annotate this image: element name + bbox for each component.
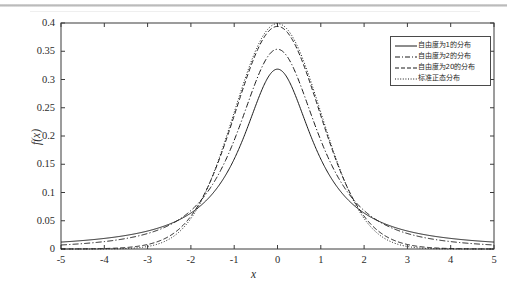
- legend-entry[interactable]: 自由度为1的分布: [394, 40, 487, 51]
- legend-line-sample-solid: [394, 41, 418, 51]
- y-axis-title: f(x): [30, 117, 42, 157]
- x-tick-label: 5: [474, 255, 507, 266]
- x-tick-label: -3: [128, 255, 168, 266]
- legend-entry[interactable]: 标准正态分布: [394, 73, 487, 84]
- x-tick-label: -5: [41, 255, 81, 266]
- x-tick-label: -2: [171, 255, 211, 266]
- curve-solid: [61, 69, 494, 242]
- y-tick-label: 0.15: [7, 159, 55, 170]
- legend-entry[interactable]: 自由度为2的分布: [394, 51, 487, 62]
- y-tick-label: 0.35: [7, 46, 55, 57]
- y-tick-label: 0.1: [7, 188, 55, 199]
- legend-line-sample-dashdot: [394, 52, 418, 62]
- legend-entry[interactable]: 自由度为20的分布: [394, 62, 487, 73]
- x-tick-label: 0: [258, 255, 298, 266]
- x-tick-label: 4: [431, 255, 471, 266]
- legend-line-sample-dashed: [394, 63, 418, 73]
- x-tick-label: 2: [344, 255, 384, 266]
- x-axis-title: x: [0, 268, 507, 280]
- x-tick-label: -1: [214, 255, 254, 266]
- y-tick-label: 0.4: [7, 18, 55, 29]
- y-tick-label: 0.3: [7, 75, 55, 86]
- legend-label: 自由度为20的分布: [418, 63, 475, 72]
- y-tick-label: 0.25: [7, 103, 55, 114]
- x-tick-label: -4: [84, 255, 124, 266]
- y-tick-label: 0: [7, 244, 55, 255]
- y-tick-label: 0.05: [7, 216, 55, 227]
- legend-label: 标准正态分布: [418, 74, 459, 83]
- legend-label: 自由度为2的分布: [418, 52, 471, 61]
- t-distribution-chart: 00.050.10.150.20.250.30.350.4 -5-4-3-2-1…: [0, 0, 507, 290]
- legend-box: 自由度为1的分布 自由度为2的分布 自由度为20的分布 标准正态分布: [390, 36, 491, 86]
- legend-label: 自由度为1的分布: [418, 41, 471, 50]
- legend-line-sample-dotted: [394, 74, 418, 84]
- x-tick-label: 3: [387, 255, 427, 266]
- x-tick-label: 1: [301, 255, 341, 266]
